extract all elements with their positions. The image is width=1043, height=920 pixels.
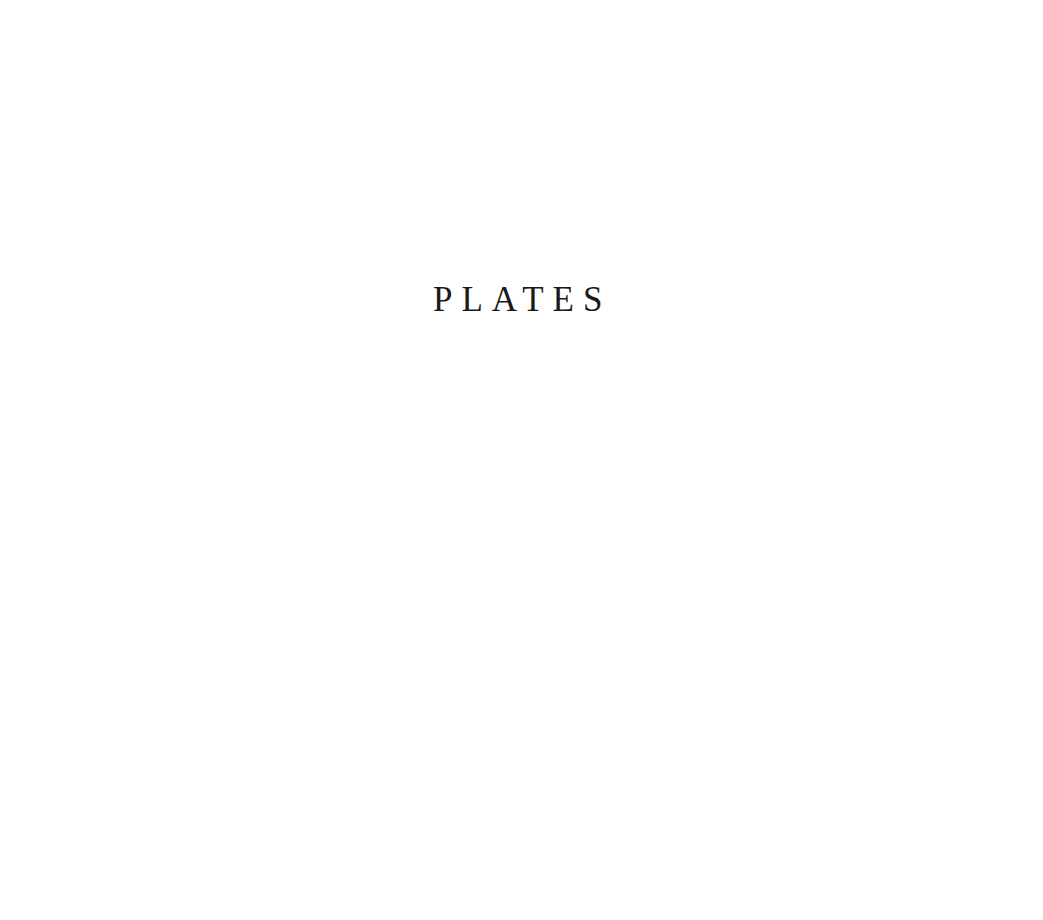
document-page: PLATES xyxy=(0,0,1043,920)
section-title: PLATES xyxy=(433,279,611,321)
